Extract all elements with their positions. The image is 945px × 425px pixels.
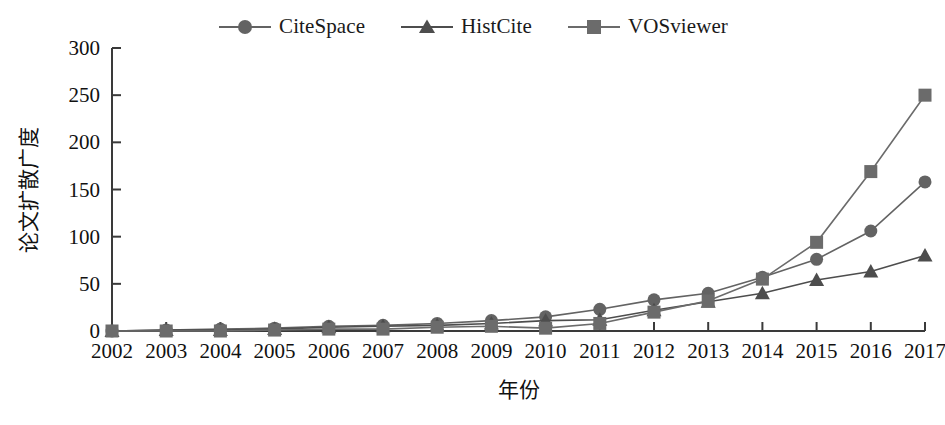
x-tick-label: 2013 [687,339,729,363]
x-tick-label: 2007 [362,339,404,363]
data-point-vosviewer-2003 [160,325,173,338]
y-tick-label: 50 [79,272,100,296]
y-axis-tick-labels: 050100150200250300 [69,36,101,343]
y-tick-label: 200 [69,130,101,154]
data-point-vosviewer-2013 [702,294,715,307]
y-tick-label: 250 [69,83,101,107]
x-axis-title: 年份 [498,378,540,402]
x-tick-label: 2004 [199,339,242,363]
data-point-vosviewer-2009 [485,320,498,333]
y-tick-label: 300 [69,36,101,60]
x-tick-label: 2014 [741,339,784,363]
x-tick-label: 2015 [796,339,838,363]
y-tick-label: 100 [69,225,101,249]
data-point-vosviewer-2014 [756,273,769,286]
data-point-citespace-2015 [810,253,823,266]
line-chart: 050100150200250300 200220032004200520062… [0,0,945,425]
data-point-vosviewer-2012 [648,306,661,319]
x-tick-label: 2003 [145,339,187,363]
x-tick-label: 2005 [254,339,296,363]
data-point-vosviewer-2017 [919,89,932,102]
data-point-vosviewer-2011 [593,317,606,330]
data-point-citespace-2017 [919,175,932,188]
series-layer [105,89,933,338]
x-tick-label: 2017 [904,339,945,363]
series-line-citespace [112,182,925,331]
plot-area: 050100150200250300 200220032004200520062… [0,0,945,425]
chart-figure: CiteSpace HistCite VOSviewer 05010015020… [0,0,945,425]
y-axis-ticks [112,48,121,331]
x-axis-tick-labels: 2002200320042005200620072008200920102011… [91,339,945,363]
data-point-vosviewer-2002 [106,325,119,338]
data-point-histcite-2017 [918,248,933,261]
x-tick-label: 2012 [633,339,675,363]
x-tick-label: 2008 [416,339,458,363]
data-point-vosviewer-2004 [214,325,227,338]
data-point-vosviewer-2008 [431,321,444,334]
series-line-vosviewer [112,95,925,331]
series-line-histcite [112,256,925,331]
x-tick-label: 2011 [579,339,620,363]
data-point-vosviewer-2016 [864,165,877,178]
x-tick-label: 2010 [525,339,567,363]
y-tick-label: 150 [69,178,101,202]
series-citespace [106,175,932,337]
x-tick-label: 2006 [308,339,350,363]
x-tick-label: 2016 [850,339,892,363]
data-point-vosviewer-2006 [322,323,335,336]
data-point-citespace-2016 [864,225,877,238]
data-point-vosviewer-2015 [810,236,823,249]
y-axis-title: 论文扩散广度 [17,127,41,253]
data-point-vosviewer-2005 [268,324,281,337]
data-point-vosviewer-2010 [539,322,552,335]
x-tick-label: 2002 [91,339,133,363]
x-tick-label: 2009 [470,339,512,363]
data-point-vosviewer-2007 [377,323,390,336]
series-vosviewer [106,89,932,338]
